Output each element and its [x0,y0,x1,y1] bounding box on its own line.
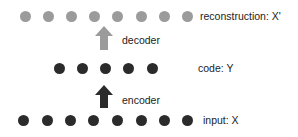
code-node [54,63,65,74]
code-label: code: Y [198,62,233,74]
code-node [147,63,158,74]
reconstruction-node [66,11,77,22]
input-node [112,115,123,126]
decoder-label: decoder [122,34,160,46]
reconstruction-node [89,11,100,22]
input-label: input: X [203,114,239,126]
input-node [182,115,193,126]
input-node [159,115,170,126]
code-node [123,63,134,74]
reconstruction-node [136,11,147,22]
code-node [100,63,111,74]
reconstruction-node [43,11,54,22]
reconstruction-node [112,11,123,22]
reconstruction-node [182,11,193,22]
input-node [42,115,53,126]
input-node [65,115,76,126]
reconstruction-node [20,11,31,22]
input-node [136,115,147,126]
encoder-arrow-icon [95,85,113,108]
input-node [18,115,29,126]
reconstruction-label: reconstruction: X' [200,10,281,22]
encoder-label: encoder [122,94,160,106]
reconstruction-node [159,11,170,22]
code-node [77,63,88,74]
input-node [88,115,99,126]
decoder-arrow-icon [95,26,113,50]
